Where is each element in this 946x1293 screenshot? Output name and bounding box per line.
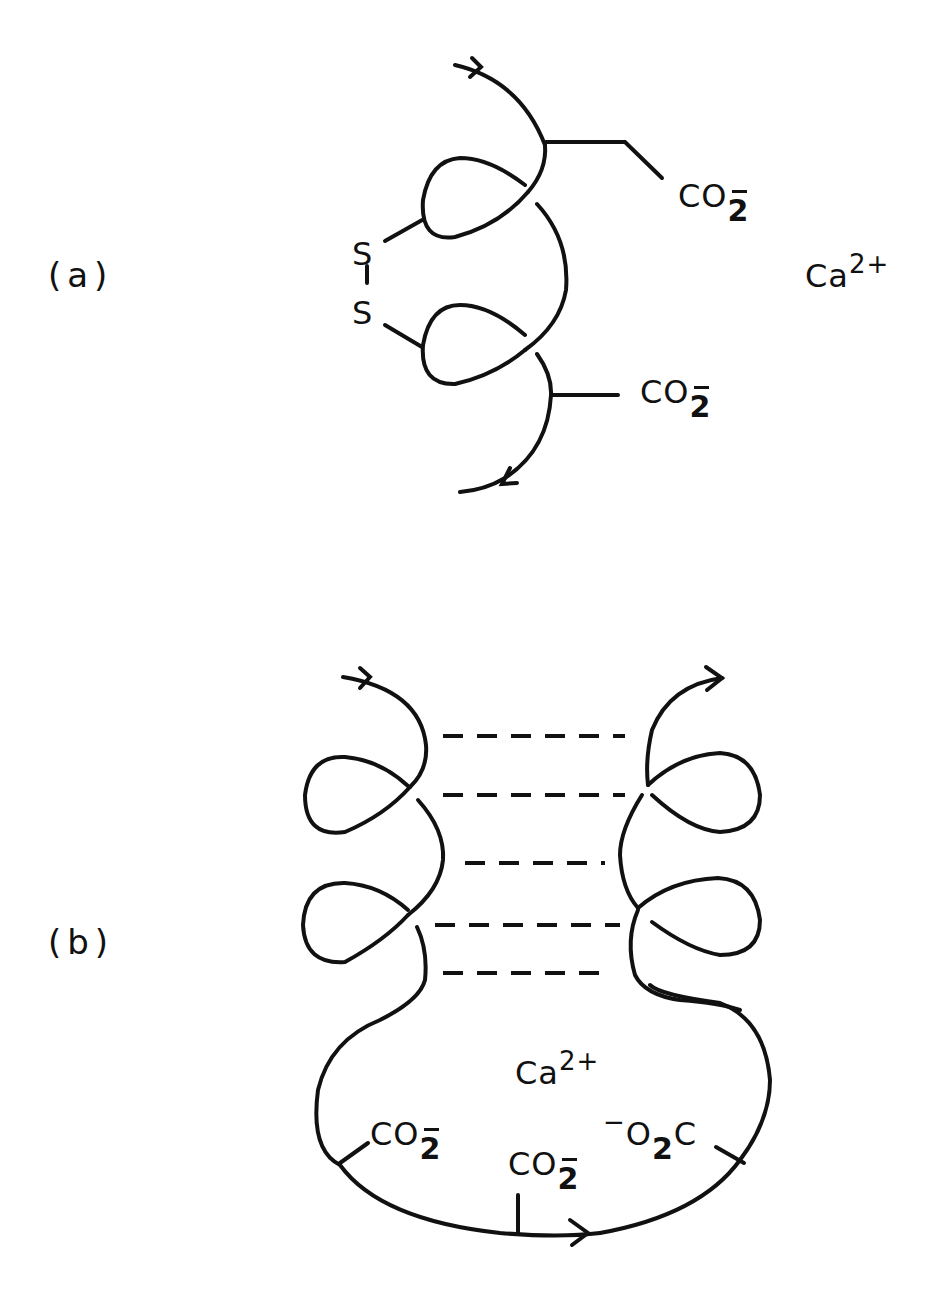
- calcium-ion-b: Ca2+: [515, 1057, 599, 1089]
- sulfur-atom-bottom: S: [352, 297, 373, 329]
- calcium-charge: 2+: [849, 249, 889, 279]
- oxygen-symbol: O: [626, 1115, 652, 1153]
- carboxylate-label-b-right: −O2C: [603, 1118, 697, 1150]
- carboxylate-base: CO: [370, 1115, 420, 1153]
- carboxylate-subscript: 2: [690, 392, 712, 422]
- sulfur-atom-top: S: [352, 238, 373, 270]
- panel-b-hydrogen-bonds: [435, 736, 625, 973]
- panel-a-chain: [367, 58, 662, 492]
- calcium-symbol: Ca: [805, 257, 849, 295]
- panel-b-right-strand: [620, 667, 760, 1010]
- carboxylate-label-a-bottom: CO2: [640, 376, 711, 408]
- calcium-ion-a: Ca2+: [805, 260, 889, 292]
- carboxylate-label-b-middle: CO2: [508, 1148, 579, 1180]
- carboxylate-subscript: 2: [420, 1134, 442, 1164]
- calcium-charge: 2+: [559, 1046, 599, 1076]
- carboxylate-subscript: 2: [728, 196, 750, 226]
- panel-label-a: (a): [48, 258, 113, 292]
- carboxylate-label-b-left: CO2: [370, 1118, 441, 1150]
- diagram-canvas: [0, 0, 946, 1293]
- carbon-symbol: C: [674, 1115, 697, 1153]
- carboxylate-base: CO: [508, 1145, 558, 1183]
- carboxylate-label-a-top: CO2: [678, 180, 749, 212]
- carboxylate-subscript: 2: [652, 1131, 674, 1166]
- carboxylate-base: CO: [640, 373, 690, 411]
- carboxylate-charge: −: [603, 1107, 626, 1137]
- panel-label-b: (b): [48, 925, 114, 959]
- carboxylate-base: CO: [678, 177, 728, 215]
- calcium-symbol: Ca: [515, 1054, 559, 1092]
- carboxylate-subscript: 2: [558, 1164, 580, 1194]
